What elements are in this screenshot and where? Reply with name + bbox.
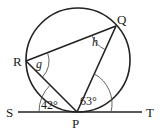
angle-label-g: g	[36, 57, 42, 71]
angle-label-63: 63°	[80, 94, 97, 108]
label-s: S	[6, 105, 13, 120]
angle-arc-g	[42, 53, 49, 78]
label-t: T	[146, 105, 154, 120]
angle-label-h: h	[92, 35, 98, 49]
label-p: P	[72, 116, 79, 131]
label-r: R	[13, 54, 22, 69]
angle-label-42: 42°	[41, 98, 58, 112]
label-q: Q	[117, 12, 127, 27]
geometry-diagram: S T P Q R g h 42° 63°	[0, 0, 164, 132]
